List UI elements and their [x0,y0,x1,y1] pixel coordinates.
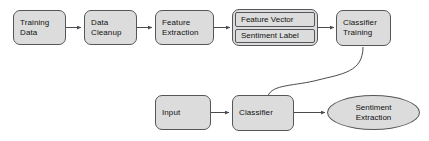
node-training-data-line2: Data [20,28,37,38]
node-feature-extraction[interactable]: Feature Extraction [155,10,214,45]
node-input[interactable]: Input [155,95,211,130]
node-classifier-training-line2: Training [343,28,372,38]
node-sentiment-extraction-line1: Sentiment [355,103,391,113]
node-sentiment-extraction-line2: Extraction [356,113,392,123]
node-feature-extraction-line2: Extraction [162,28,199,38]
node-training-data-line1: Training [20,18,49,28]
edge-classifier-training-to-classifier [268,47,363,96]
node-classifier-label: Classifier [239,108,273,118]
node-sentiment-extraction[interactable]: Sentiment Extraction [327,95,420,130]
node-classifier-training[interactable]: Classifier Training [336,10,391,46]
node-feature-extraction-line1: Feature [162,18,190,28]
compartment-sentiment-label-label: Sentiment Label [241,31,299,40]
compartment-feature-vector-label: Feature Vector [241,15,293,24]
compartment-feature-vector[interactable]: Feature Vector [235,12,315,27]
node-data-cleanup-line1: Data [91,18,108,28]
node-training-data[interactable]: Training Data [13,10,66,45]
diagram-canvas: Training Data Data Cleanup Feature Extra… [0,0,429,141]
node-feature-vector-sentiment-label[interactable]: Feature Vector Sentiment Label [232,9,318,46]
node-classifier-training-line1: Classifier [343,18,377,28]
node-data-cleanup-line2: Cleanup [91,28,122,38]
node-data-cleanup[interactable]: Data Cleanup [84,10,137,45]
node-input-label: Input [162,108,180,118]
node-classifier[interactable]: Classifier [232,95,294,131]
compartment-sentiment-label[interactable]: Sentiment Label [235,29,315,44]
